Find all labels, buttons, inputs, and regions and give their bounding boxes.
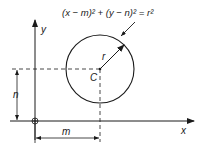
center-label: C — [90, 72, 98, 83]
circle-equation-diagram: (x − m)² + (y − n)² = r² y x C r n m — [0, 0, 200, 149]
m-label: m — [62, 126, 70, 137]
n-label: n — [13, 89, 19, 100]
radius-label: r — [102, 51, 106, 62]
equation-label: (x − m)² + (y − n)² = r² — [62, 7, 154, 18]
origin-icon — [32, 118, 38, 124]
y-axis-label: y — [40, 24, 47, 35]
x-axis-label: x — [180, 125, 187, 136]
equation-leader-arrow — [121, 22, 135, 36]
